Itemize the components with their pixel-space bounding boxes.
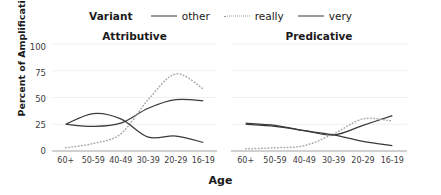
y-tick-label-100: 100 xyxy=(24,42,46,52)
x-tick-label-30-39: 30-39 xyxy=(135,155,163,167)
legend-item-really: really xyxy=(224,10,284,22)
legend-item-very: very xyxy=(298,10,352,22)
legend-item-other: other xyxy=(151,10,210,22)
series-line-other xyxy=(66,99,204,126)
plot-area-attributive xyxy=(52,44,217,151)
x-tick-label-40-49: 40-49 xyxy=(107,155,135,167)
x-axis-title: Age xyxy=(0,174,441,187)
legend-title: Variant xyxy=(89,10,133,22)
x-tick-label-20-29: 20-29 xyxy=(348,155,377,167)
facet-title-attributive: Attributive xyxy=(52,28,217,43)
facet-title-predicative: Predicative xyxy=(231,28,407,43)
x-axis-ticks-predicative: 60+50-5940-4930-3920-2916-19 xyxy=(231,155,407,167)
series-line-very xyxy=(66,113,204,142)
chart-figure: Variant other really very Attributive Pr… xyxy=(0,0,441,195)
legend-line-solid-icon xyxy=(151,11,177,21)
x-tick-label-16-19: 16-19 xyxy=(190,155,218,167)
x-tick-label-60+: 60+ xyxy=(52,155,80,167)
legend-label-very: very xyxy=(329,10,352,22)
y-tick-label-50: 50 xyxy=(24,94,46,104)
legend-line-dotted-icon xyxy=(224,11,250,21)
panel-predicative xyxy=(231,44,407,151)
x-tick-label-60+: 60+ xyxy=(231,155,260,167)
x-axis-ticks-attributive: 60+50-5940-4930-3920-2916-19 xyxy=(52,155,217,167)
x-tick-label-50-59: 50-59 xyxy=(260,155,289,167)
x-tick-label-16-19: 16-19 xyxy=(378,155,407,167)
series-line-very xyxy=(246,124,393,145)
legend-label-really: really xyxy=(255,10,284,22)
panel-attributive xyxy=(52,44,217,151)
plot-area-predicative xyxy=(231,44,407,151)
x-tick-label-20-29: 20-29 xyxy=(162,155,190,167)
x-tick-label-40-49: 40-49 xyxy=(290,155,319,167)
legend-label-other: other xyxy=(182,10,210,22)
x-tick-label-50-59: 50-59 xyxy=(80,155,108,167)
chart-legend: Variant other really very xyxy=(0,6,441,26)
y-tick-label-75: 75 xyxy=(24,68,46,78)
y-tick-label-0: 0 xyxy=(24,146,46,156)
legend-line-solid-icon-2 xyxy=(298,11,324,21)
y-tick-label-25: 25 xyxy=(24,120,46,130)
x-tick-label-30-39: 30-39 xyxy=(319,155,348,167)
